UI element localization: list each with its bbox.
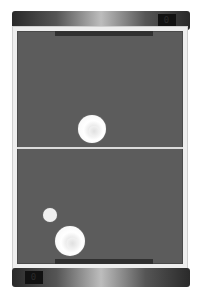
opponent-mallet-handle	[89, 126, 100, 137]
player-mallet[interactable]	[55, 226, 85, 256]
player-score-display: 0	[25, 271, 43, 284]
player-goal	[55, 259, 153, 264]
table-surface[interactable]	[17, 31, 183, 264]
opponent-goal	[55, 31, 153, 36]
center-line	[17, 147, 183, 149]
puck	[43, 208, 57, 222]
player-mallet-handle[interactable]	[66, 237, 78, 249]
player-score-bar: 0	[12, 268, 190, 287]
opponent-mallet	[78, 115, 106, 143]
hockey-table[interactable]	[12, 26, 188, 269]
